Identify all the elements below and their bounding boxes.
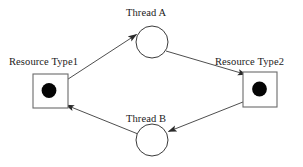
graph-canvas	[0, 0, 303, 167]
thread-a-circle	[136, 26, 168, 58]
node-thread-a[interactable]	[136, 26, 168, 58]
thread-b-label: Thread B	[126, 113, 166, 125]
node-resource-type-2[interactable]	[243, 72, 277, 107]
node-thread-b[interactable]	[136, 124, 168, 156]
resource-type-2-instance-token	[252, 82, 267, 97]
resource-allocation-graph: Resource Type1 Thread A Resource Type2 T…	[0, 0, 303, 167]
edge-resource2-to-thread-b	[169, 100, 249, 132]
node-resource-type-1[interactable]	[33, 74, 68, 108]
resource-type-1-instance-token	[42, 83, 57, 98]
thread-b-circle	[136, 124, 168, 156]
thread-a-label: Thread A	[126, 7, 166, 19]
resource-type-2-label: Resource Type2	[215, 56, 284, 68]
resource-type-1-label: Resource Type1	[9, 56, 78, 68]
